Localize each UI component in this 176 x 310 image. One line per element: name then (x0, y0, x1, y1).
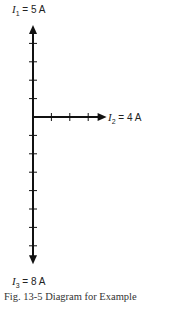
phasor-i3 (29, 117, 37, 264)
phasor-i1 (29, 25, 37, 117)
arrowhead-icon (29, 25, 37, 34)
label-i3: I3 = 8 A (12, 275, 45, 289)
arrowhead-icon (98, 113, 107, 121)
figure-caption: Fig. 13-5 Diagram for Example (4, 291, 137, 302)
label-i1: I1 = 5 A (12, 3, 45, 17)
label-i2: I2 = 4 A (108, 111, 141, 125)
arrowhead-icon (29, 255, 37, 264)
phasor-i2 (33, 113, 107, 121)
phasor-diagram (0, 0, 176, 310)
